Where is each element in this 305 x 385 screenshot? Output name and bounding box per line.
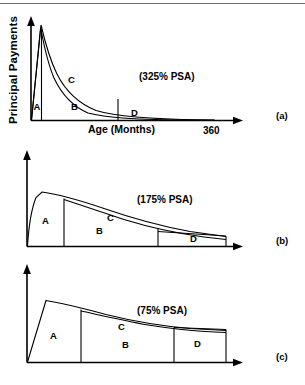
panel-c: A B C D (75% PSA) (c) xyxy=(23,264,287,366)
panel-c-region-label-D: D xyxy=(194,338,201,349)
panel-a: Principal Payments A B C D (325% PSA) Ag… xyxy=(7,16,288,136)
y-axis-title: Principal Payments xyxy=(7,16,19,124)
panel-a-region-label-B: B xyxy=(71,101,78,112)
panel-a-region-label-C: C xyxy=(68,74,75,85)
panel-c-region-label-B: B xyxy=(122,339,129,350)
panel-b-psa-label: (175% PSA) xyxy=(137,194,193,205)
panel-c-axes xyxy=(23,264,243,366)
panel-b-region-label-C: C xyxy=(107,212,114,223)
panel-b: A B C D (175% PSA) (b) xyxy=(23,150,288,250)
x-axis-max-tick: 360 xyxy=(203,125,220,136)
panel-b-region-label-B: B xyxy=(96,225,103,236)
panel-a-psa-label: (325% PSA) xyxy=(139,71,195,82)
panel-label-b: (b) xyxy=(276,235,288,246)
x-axis-title: Age (Months) xyxy=(88,123,155,135)
panel-c-region-label-C: C xyxy=(118,321,125,332)
panel-a-region-label-A: A xyxy=(34,101,41,112)
panel-b-region-label-D: D xyxy=(190,233,197,244)
psa-principal-payment-figure: Principal Payments A B C D (325% PSA) Ag… xyxy=(0,0,305,385)
panel-label-a: (a) xyxy=(276,110,288,121)
panel-a-region-label-D: D xyxy=(131,107,138,118)
panel-b-region-label-A: A xyxy=(42,215,49,226)
panel-label-c: (c) xyxy=(276,351,288,362)
panel-c-region-label-A: A xyxy=(50,330,57,341)
panel-c-psa-label: (75% PSA) xyxy=(137,305,187,316)
